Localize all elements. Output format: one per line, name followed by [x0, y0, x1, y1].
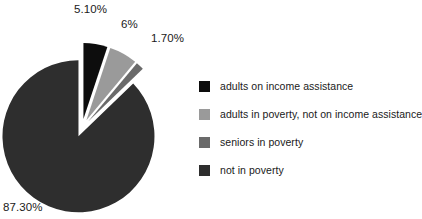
legend: adults on income assistance adults in po…: [199, 72, 414, 184]
legend-swatch-icon: [199, 109, 210, 120]
legend-swatch-icon: [199, 165, 210, 176]
legend-item-label: not in poverty: [220, 164, 284, 176]
legend-swatch-icon: [199, 137, 210, 148]
legend-item-adults-on-income-assistance[interactable]: adults on income assistance: [199, 72, 414, 100]
pie-label-seniors-in-poverty: 1.70%: [151, 32, 184, 44]
pie-label-adults-on-income-assistance: 5.10%: [74, 3, 107, 15]
legend-item-label: adults in poverty, not on income assista…: [220, 108, 422, 120]
pie-label-not-in-poverty: 87.30%: [3, 201, 43, 213]
legend-item-not-in-poverty[interactable]: not in poverty: [199, 156, 414, 184]
legend-item-label: seniors in poverty: [220, 136, 303, 148]
pie-slices: [2, 43, 154, 212]
legend-item-adults-in-poverty-not-on-income-assistance[interactable]: adults in poverty, not on income assista…: [199, 100, 414, 128]
legend-swatch-icon: [199, 81, 210, 92]
pie-label-adults-in-poverty-not-on-income-assistance: 6%: [121, 18, 138, 30]
legend-item-seniors-in-poverty[interactable]: seniors in poverty: [199, 128, 414, 156]
pie-slice-not-in-poverty[interactable]: [2, 60, 154, 212]
legend-item-label: adults on income assistance: [220, 80, 353, 92]
